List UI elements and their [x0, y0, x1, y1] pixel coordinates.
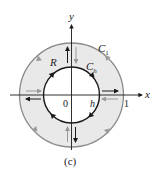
outer-radius-label: 1: [124, 98, 129, 109]
region-label: R: [49, 56, 57, 68]
inner-curve-label-sub: h: [93, 67, 97, 75]
y-axis-label: y: [68, 10, 74, 22]
outer-curve-label-sub: 1: [105, 49, 109, 57]
figure-caption: (c): [64, 155, 77, 168]
origin-label: 0: [63, 98, 68, 109]
x-axis-label: x: [144, 88, 150, 100]
inner-radius-label: h: [90, 98, 95, 109]
annulus-diagram: y x 0 R C1 Ch h 1 (c): [0, 0, 160, 174]
